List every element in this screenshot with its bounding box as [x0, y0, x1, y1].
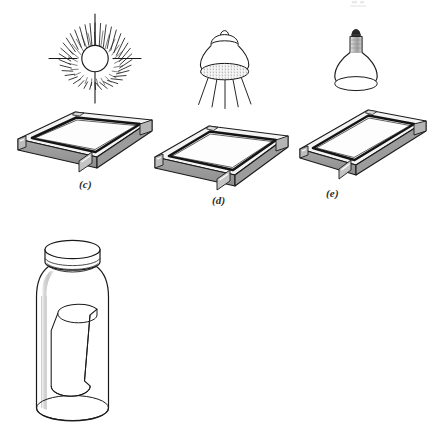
figure-root: (c) (d) (e)	[0, 0, 448, 426]
frame-corner-bracket	[18, 136, 26, 150]
sun-core	[82, 45, 108, 71]
jar-lid-top	[45, 240, 100, 258]
bulb-screw-base	[350, 36, 362, 53]
panel-label-e: (e)	[326, 187, 339, 199]
storage-jar	[37, 240, 109, 420]
frame-corner-bracket	[155, 154, 163, 168]
panel-label-c: (c)	[79, 178, 92, 190]
panel-label-d: (d)	[212, 194, 225, 206]
bulb-rim	[335, 77, 377, 91]
figure-illustration	[0, 0, 448, 426]
